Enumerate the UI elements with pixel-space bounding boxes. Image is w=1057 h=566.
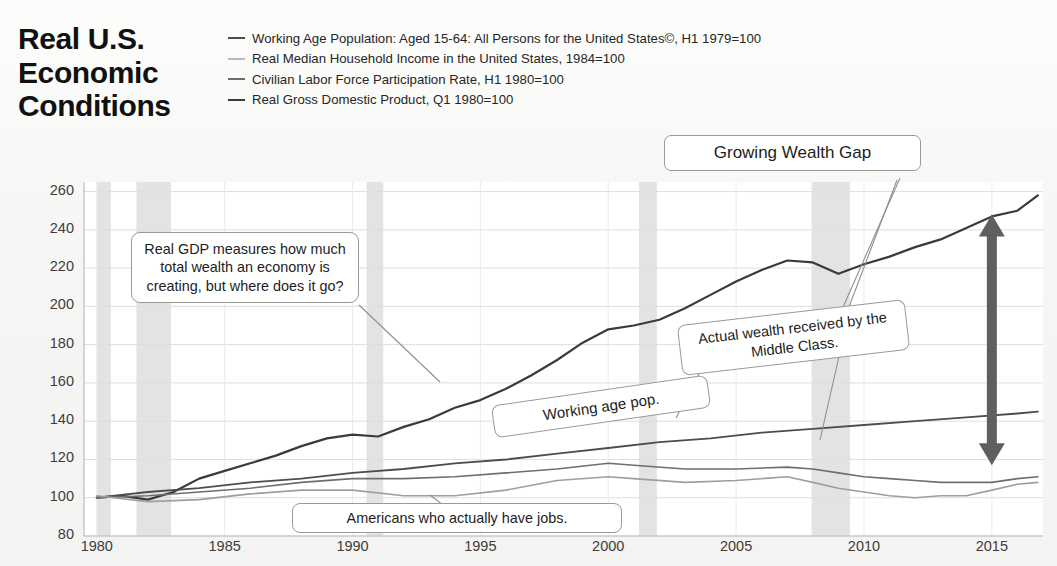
annotation-real-gdp: Real GDP measures how much total wealth … — [131, 232, 359, 303]
x-tick-label: 2005 — [720, 538, 752, 554]
legend-line-icon — [228, 99, 245, 101]
y-tick-label: 240 — [26, 220, 74, 236]
x-tick-label: 1980 — [81, 538, 113, 554]
y-axis-ticks: 80100120140160180200220240260 — [26, 116, 74, 566]
x-axis-ticks: 19801985199019952000200520102015 — [0, 530, 1057, 566]
legend-item-working-age-population[interactable]: Working Age Population: Aged 15-64: All … — [228, 28, 1048, 49]
y-tick-label: 260 — [26, 182, 74, 198]
legend-label: Real Median Household Income in the Unit… — [252, 51, 625, 66]
y-tick-label: 180 — [26, 335, 74, 351]
x-tick-label: 2010 — [848, 538, 880, 554]
x-tick-label: 1990 — [336, 538, 368, 554]
legend-line-icon — [228, 58, 245, 60]
chart-page: Real U.S. Economic Conditions Working Ag… — [0, 0, 1057, 566]
legend-item-real-median-household-income[interactable]: Real Median Household Income in the Unit… — [228, 49, 1048, 70]
x-tick-label: 2015 — [976, 538, 1008, 554]
legend-label: Civilian Labor Force Participation Rate,… — [252, 72, 564, 87]
y-tick-label: 160 — [26, 373, 74, 389]
y-tick-label: 120 — [26, 449, 74, 465]
legend-label: Real Gross Domestic Product, Q1 1980=100 — [252, 92, 513, 107]
y-tick-label: 140 — [26, 411, 74, 427]
chart-legend: Working Age Population: Aged 15-64: All … — [228, 28, 1048, 110]
x-tick-label: 1985 — [209, 538, 241, 554]
x-tick-label: 2000 — [592, 538, 624, 554]
y-tick-label: 200 — [26, 296, 74, 312]
y-tick-label: 220 — [26, 258, 74, 274]
legend-label: Working Age Population: Aged 15-64: All … — [252, 31, 761, 46]
legend-line-icon — [228, 78, 245, 80]
annotation-growing-wealth-gap: Growing Wealth Gap — [664, 135, 921, 171]
legend-item-labor-force-participation[interactable]: Civilian Labor Force Participation Rate,… — [228, 69, 1048, 90]
legend-line-icon — [228, 37, 245, 39]
y-tick-label: 100 — [26, 488, 74, 504]
annotation-americans-with-jobs: Americans who actually have jobs. — [292, 503, 622, 533]
x-tick-label: 1995 — [464, 538, 496, 554]
page-title: Real U.S. Economic Conditions — [18, 22, 223, 123]
legend-item-real-gdp[interactable]: Real Gross Domestic Product, Q1 1980=100 — [228, 90, 1048, 111]
